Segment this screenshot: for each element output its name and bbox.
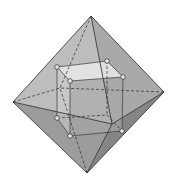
vertex-bfr <box>120 129 125 134</box>
vertex-tfl <box>68 79 73 84</box>
vertex-tbl <box>55 65 60 70</box>
vertex-bfl <box>68 134 73 139</box>
cube-front-face <box>70 77 123 136</box>
vertex-tbr <box>105 59 110 64</box>
octahedron-cube-diagram <box>0 0 171 187</box>
vertex-tfr <box>121 75 126 80</box>
vertex-bbl <box>55 116 60 121</box>
